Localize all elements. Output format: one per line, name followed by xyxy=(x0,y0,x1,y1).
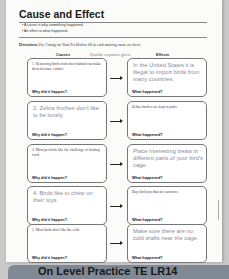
cause-text: 3. Most pet birds like the challenge of … xyxy=(32,148,102,158)
cause-question: Why did it happen? xyxy=(32,218,67,222)
effect-answer: In the United States it is illegal to im… xyxy=(133,62,203,83)
effect-question: What happened? xyxy=(132,176,163,180)
arrow-icon xyxy=(110,243,121,244)
effects-header: Effects xyxy=(156,52,169,57)
effect-text: Buy bird toys that are nontoxic. xyxy=(132,190,202,195)
directions-text: Use Caring for Your Pet Bird to fill in … xyxy=(39,43,141,47)
cause-box-5[interactable]: 5. Most birds don't like the cold. Why d… xyxy=(27,224,107,263)
effect-question: What happened? xyxy=(132,256,163,260)
causes-header: Causes xyxy=(56,52,70,57)
cause-box-4[interactable]: 4. Birds like to chew on their toys. Why… xyxy=(27,186,107,225)
worksheet-page: Cause and Effect A cause is why somethin… xyxy=(6,0,222,262)
directions: Directions Use Caring for Your Pet Bird … xyxy=(19,43,141,47)
arrow-icon xyxy=(110,78,121,79)
effect-box-4[interactable]: Buy bird toys that are nontoxic. What ha… xyxy=(127,186,207,225)
page-title: Cause and Effect xyxy=(19,8,104,20)
cause-answer: 4. Birds like to chew on their toys. xyxy=(33,190,103,204)
cause-text: 5. Most birds don't like the cold. xyxy=(32,228,102,233)
definitions-list: A cause is why something happened. An ef… xyxy=(22,22,83,34)
cause-box-2[interactable]: 2. Zebra finches don't like to be lonely… xyxy=(27,101,107,140)
effect-question: What happened? xyxy=(132,218,163,222)
cause-text: 1. Removing birds from their habitat can… xyxy=(32,62,102,72)
effect-box-1[interactable]: In the United States it is illegal to im… xyxy=(127,58,207,97)
effect-answer: Place interesting treats in different pa… xyxy=(133,148,203,169)
footer-label: On Level Practice TE LR14 xyxy=(38,265,177,277)
effect-question: What happened? xyxy=(132,133,163,137)
effect-box-5[interactable]: Make sure there are no cold drafts near … xyxy=(127,224,207,263)
cause-box-1[interactable]: 1. Removing birds from their habitat can… xyxy=(27,58,107,97)
divider xyxy=(19,37,207,38)
arrow-icon xyxy=(110,164,121,165)
cause-box-3[interactable]: 3. Most pet birds like the challenge of … xyxy=(27,144,107,183)
cause-question: Why did it happen? xyxy=(32,176,67,180)
effect-text: Zebra finches are kept in pairs. xyxy=(132,105,202,110)
arrow-icon xyxy=(110,206,121,207)
arrow-icon xyxy=(110,121,121,122)
cause-question: Why did it happen? xyxy=(32,256,67,260)
bullet-effect: An effect is what happened. xyxy=(22,28,83,34)
responses-note: Possible responses given. xyxy=(90,52,131,57)
effect-box-2[interactable]: Zebra finches are kept in pairs. What ha… xyxy=(127,101,207,140)
effect-box-3[interactable]: Place interesting treats in different pa… xyxy=(127,144,207,183)
footer-bar: On Level Practice TE LR14 xyxy=(8,265,229,279)
effect-question: What happened? xyxy=(132,90,163,94)
cause-question: Why did it happen? xyxy=(32,133,67,137)
cause-answer: 2. Zebra finches don't like to be lonely… xyxy=(33,105,103,119)
copyright-margin xyxy=(218,200,219,220)
cause-question: Why did it happen? xyxy=(32,90,67,94)
directions-label: Directions xyxy=(19,43,38,47)
effect-answer: Make sure there are no cold drafts near … xyxy=(133,228,203,242)
